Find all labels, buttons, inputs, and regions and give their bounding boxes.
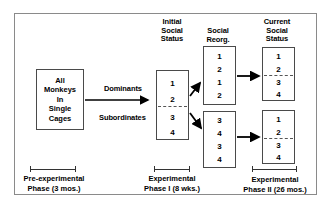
cell-reorg-bottom-1: 3	[204, 117, 235, 125]
measure-tick-right-phase-1	[189, 166, 190, 172]
measure-tick-right-phase-2	[296, 166, 297, 172]
cell-current-top-4: 4	[263, 91, 294, 99]
cell-current-bottom-4: 4	[263, 154, 294, 162]
cell-initial-status-4: 4	[157, 129, 188, 137]
start-box-all-monkeys-single-cages: All Monkeys In Single Cages	[36, 69, 84, 130]
caption-phase-2-line-2: Phase II (26 mos.)	[226, 185, 324, 195]
caption-phase-2: Experimental Phase II (26 mos.)	[226, 175, 324, 194]
measure-phase-2	[252, 166, 297, 172]
measure-phase-1	[154, 166, 190, 172]
divider-current-bottom	[264, 138, 293, 139]
start-box-line-5: Cages	[49, 114, 72, 123]
cell-current-top-2: 2	[263, 66, 294, 74]
cell-current-top-1: 1	[263, 53, 294, 61]
box-reorg-bottom: 3 4 3 4	[203, 111, 236, 168]
caption-pre-line-1: Pre-experimental	[8, 174, 100, 184]
measure-tick-left-phase-1	[154, 166, 155, 172]
column-header-social-reorg: Social Reorg.	[196, 27, 240, 44]
cell-current-bottom-3: 3	[263, 142, 294, 150]
caption-pre-line-2: Phase (3 mos.)	[8, 184, 100, 194]
measure-tick-left-pre	[30, 166, 31, 172]
box-initial-status: 1 2 3 4	[156, 70, 189, 140]
cell-reorg-bottom-3: 3	[204, 143, 235, 151]
caption-pre-experimental: Pre-experimental Phase (3 mos.)	[8, 174, 100, 193]
caption-phase-1-line-2: Phase I (8 wks.)	[126, 184, 218, 194]
cell-reorg-top-4: 2	[204, 92, 235, 100]
caption-phase-1: Experimental Phase I (8 wks.)	[126, 174, 218, 193]
cell-current-bottom-2: 2	[263, 129, 294, 137]
start-box-line-2: Monkeys	[44, 85, 76, 94]
measure-tick-left-phase-2	[252, 166, 253, 172]
cell-current-bottom-1: 1	[263, 116, 294, 124]
measure-bar-phase-2	[252, 169, 297, 170]
group-label-dominants: Dominants	[104, 84, 142, 93]
column-header-current-line-3: Status	[252, 35, 302, 44]
cell-reorg-top-1: 1	[204, 53, 235, 61]
cell-reorg-bottom-4: 4	[204, 156, 235, 164]
box-reorg-top: 1 2 1 2	[203, 46, 236, 105]
cell-current-top-3: 3	[263, 79, 294, 87]
column-header-initial-social-status: Initial Social Status	[150, 18, 194, 44]
cell-reorg-top-2: 2	[204, 66, 235, 74]
start-box-line-1: All	[55, 76, 65, 85]
start-box-line-3: In	[57, 95, 64, 104]
cell-initial-status-3: 3	[157, 114, 188, 122]
cell-reorg-top-3: 1	[204, 79, 235, 87]
cell-initial-status-2: 2	[157, 96, 188, 104]
column-header-reorg-line-2: Reorg.	[196, 36, 240, 45]
cell-reorg-bottom-2: 4	[204, 130, 235, 138]
start-box-line-4: Single	[49, 104, 72, 113]
measure-tick-right-pre	[75, 166, 76, 172]
cell-initial-status-1: 1	[157, 80, 188, 88]
group-label-subordinates: Subordinates	[99, 113, 146, 122]
caption-phase-1-line-1: Experimental	[126, 174, 218, 184]
caption-phase-2-line-1: Experimental	[226, 175, 324, 185]
box-current-bottom: 1 2 3 4	[262, 110, 295, 164]
box-current-top: 1 2 3 4	[262, 47, 295, 101]
divider-current-top	[264, 75, 293, 76]
measure-pre-experimental	[30, 166, 76, 172]
measure-bar-phase-1	[154, 169, 190, 170]
column-header-current-social-status: Current Social Status	[252, 18, 302, 44]
measure-bar-pre	[30, 169, 76, 170]
figure-canvas: Initial Social Status Social Reorg. Curr…	[0, 0, 331, 207]
column-header-initial-line-3: Status	[150, 35, 194, 44]
divider-initial-status	[158, 106, 187, 107]
